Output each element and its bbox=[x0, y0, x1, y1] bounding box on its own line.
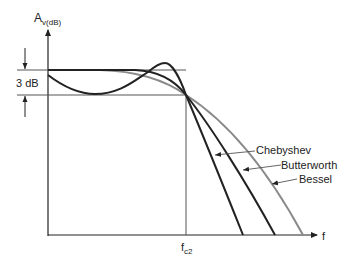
bessel-label: Bessel bbox=[299, 173, 332, 185]
chebyshev-curve bbox=[48, 63, 243, 235]
filter-response-diagram: Av(dB) 3 dB f fc2 Chebyshev Butterworth … bbox=[0, 0, 347, 261]
butterworth-label: Butterworth bbox=[281, 159, 337, 171]
cutoff-frequency-label: fc2 bbox=[181, 241, 193, 256]
x-axis-label: f bbox=[322, 230, 326, 242]
y-axis-label: Av(dB) bbox=[34, 11, 61, 27]
ripple-label: 3 dB bbox=[16, 77, 39, 89]
bessel-callout-line bbox=[272, 179, 297, 184]
chebyshev-label: Chebyshev bbox=[256, 144, 312, 156]
